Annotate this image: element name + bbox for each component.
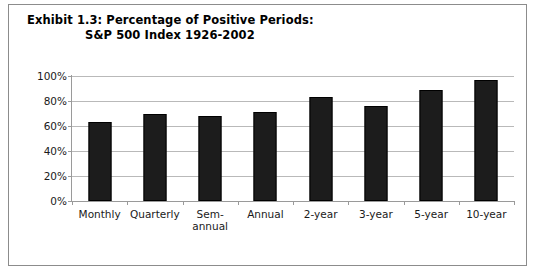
x-axis-tick-mark: [348, 201, 349, 205]
bar[interactable]: [364, 106, 387, 201]
bar[interactable]: [199, 116, 222, 201]
bar[interactable]: [420, 90, 443, 201]
x-axis-tick-label: Monthly: [72, 208, 127, 220]
y-axis-tick-mark: [68, 126, 72, 127]
x-axis-tick-label: Sem- annual: [183, 208, 238, 232]
y-axis-tick-mark: [68, 76, 72, 77]
x-axis-tick-label: 5-year: [404, 208, 459, 220]
bar-slot: [72, 76, 127, 201]
y-axis-tick-mark: [68, 151, 72, 152]
x-axis-tick-mark: [404, 201, 405, 205]
bar[interactable]: [88, 122, 111, 201]
x-axis-tick-mark: [514, 201, 515, 205]
y-axis-tick-mark: [68, 176, 72, 177]
y-axis-tick-label: 80%: [15, 96, 67, 106]
x-axis-tick-mark: [183, 201, 184, 205]
chart-title-line-1: Exhibit 1.3: Percentage of Positive Peri…: [27, 13, 526, 28]
x-axis-tick-label: 10-year: [459, 208, 514, 220]
bar-slot: [183, 76, 238, 201]
bar-slot: [459, 76, 514, 201]
x-axis-tick-mark: [293, 201, 294, 205]
bar[interactable]: [143, 114, 166, 202]
bar-slot: [348, 76, 403, 201]
bar-slot: [238, 76, 293, 201]
bar-slot: [293, 76, 348, 201]
x-axis-tick-mark: [459, 201, 460, 205]
chart-title: Exhibit 1.3: Percentage of Positive Peri…: [9, 13, 526, 43]
x-axis-tick-mark: [127, 201, 128, 205]
y-axis-tick-label: 100%: [15, 71, 67, 81]
bar-slot: [404, 76, 459, 201]
bar[interactable]: [254, 112, 277, 201]
y-axis-labels: 100%80%60%40%20%0%: [9, 5, 67, 265]
y-axis-tick-label: 40%: [15, 146, 67, 156]
chart-title-line-2: S&P 500 Index 1926-2002: [27, 28, 526, 43]
bar[interactable]: [475, 80, 498, 201]
y-axis-tick-label: 20%: [15, 171, 67, 181]
x-axis-tick-label: Annual: [238, 208, 293, 220]
x-axis-tick-mark: [72, 201, 73, 205]
y-axis-tick-label: 60%: [15, 121, 67, 131]
x-axis-tick-label: Quarterly: [127, 208, 182, 220]
x-axis-tick-mark: [238, 201, 239, 205]
y-axis-tick-label: 0%: [15, 196, 67, 206]
y-axis-tick-mark: [68, 101, 72, 102]
x-axis-tick-label: 2-year: [293, 208, 348, 220]
bar-slot: [127, 76, 182, 201]
bar[interactable]: [309, 97, 332, 201]
chart-figure: Exhibit 1.3: Percentage of Positive Peri…: [8, 4, 527, 266]
plot-area: [72, 76, 514, 201]
x-axis-tick-label: 3-year: [348, 208, 403, 220]
